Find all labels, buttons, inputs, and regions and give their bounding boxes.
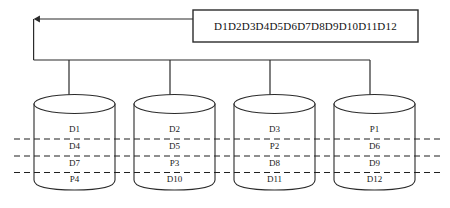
disk-2-block-1: D5 [169,141,180,151]
source-block-label: D1D2D3D4D5D6D7D8D9D10D11D12 [214,20,397,32]
diagram-svg: D1D2D3D4D5D6D7D8D9D10D11D12 D1 D4 D7 P4 [0,0,450,208]
disk-4-block-0: P1 [370,124,380,134]
disk-1-block-2: D7 [69,158,80,168]
disk-2-top [134,95,215,114]
disk-3-block-0: D3 [269,124,280,134]
disk-2-block-0: D2 [169,124,180,134]
disk-3-block-1: P2 [270,141,280,151]
disk-2-block-2: P3 [170,158,180,168]
disk-4-block-2: D9 [369,158,380,168]
disk-3-top [234,95,315,114]
disk-feed-arrows [69,60,370,104]
diagram-canvas: D1D2D3D4D5D6D7D8D9D10D11D12 D1 D4 D7 P4 [0,0,450,208]
disk-4[interactable]: P1 D6 D9 D12 [334,95,415,191]
disk-1-block-0: D1 [69,124,80,134]
disk-4-block-3: D12 [367,174,383,184]
source-data-block: D1D2D3D4D5D6D7D8D9D10D11D12 [193,10,418,42]
disk-4-top [334,95,415,114]
disk-3-block-2: D8 [269,158,280,168]
disk-1-block-1: D4 [69,141,80,151]
disk-2[interactable]: D2 D5 P3 D10 [134,95,215,191]
disk-3-block-3: D11 [267,174,282,184]
disk-1-top [34,95,115,114]
disk-1-block-3: P4 [70,174,80,184]
disk-3[interactable]: D3 P2 D8 D11 [234,95,315,191]
disk-1[interactable]: D1 D4 D7 P4 [34,95,115,191]
disk-4-block-1: D6 [369,141,380,151]
disk-2-block-3: D10 [167,174,183,184]
